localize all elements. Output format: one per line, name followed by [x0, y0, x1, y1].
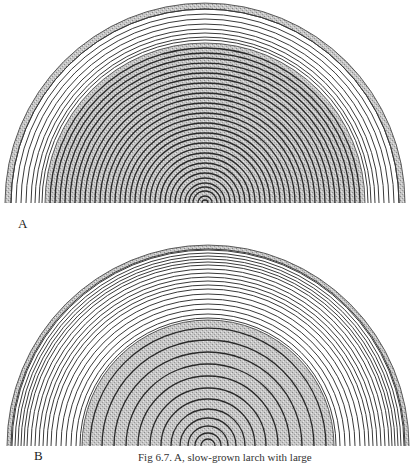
- panel-b-rings: [7, 245, 409, 446]
- figure-caption: Fig 6.7. A, slow-grown larch with large: [138, 451, 312, 463]
- tree-ring-figure: [0, 0, 413, 464]
- panel-a-label: A: [18, 216, 27, 232]
- panel-b-label: B: [34, 448, 43, 464]
- panel-a-rings: [5, 3, 405, 203]
